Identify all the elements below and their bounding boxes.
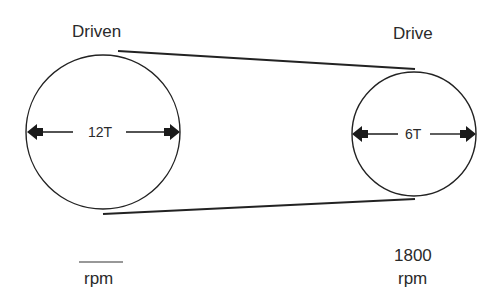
drive-rpm-unit: rpm (398, 270, 427, 287)
drive-title: Drive (393, 25, 433, 42)
driven-teeth-label: 12T (86, 125, 114, 139)
driven-rpm-unit: rpm (84, 270, 113, 287)
belt-top-line (118, 51, 415, 69)
drive-rpm-value: 1800 (394, 247, 432, 264)
belt-bottom-line (103, 199, 415, 214)
driven-title: Driven (72, 23, 121, 40)
drive-teeth-label: 6T (403, 127, 423, 141)
